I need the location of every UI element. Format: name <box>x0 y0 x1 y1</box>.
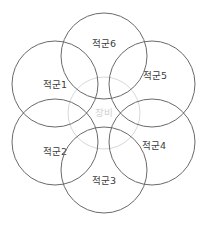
enemy-6-label: 적군6 <box>92 38 116 49</box>
enemy-5-label: 적군5 <box>143 70 167 81</box>
enemy-3-label: 적군3 <box>92 175 116 186</box>
enemy-1-label: 적군1 <box>43 79 67 90</box>
enemy-6-group[interactable]: 적군6 <box>61 13 147 99</box>
enemy-6-circle[interactable] <box>61 13 147 99</box>
center-node-label: 장비 <box>95 107 113 118</box>
venn-diagram-container: 장비 적군1 적군2 적군3 적군4 적군5 적군6 <box>0 0 207 226</box>
venn-diagram-canvas: 장비 적군1 적군2 적군3 적군4 적군5 적군6 <box>0 0 207 226</box>
enemy-4-label: 적군4 <box>142 140 166 151</box>
